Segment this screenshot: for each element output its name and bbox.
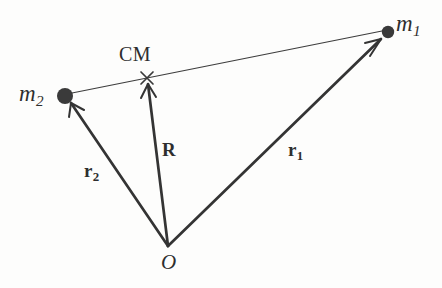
vector-r2-subscript: 2 bbox=[93, 169, 99, 184]
diagram-canvas bbox=[0, 0, 442, 288]
mass-2-subscript: 2 bbox=[36, 92, 44, 109]
origin-vertex-point bbox=[167, 245, 169, 247]
mass-1-dot-icon bbox=[382, 26, 394, 38]
center-of-mass-label: CM bbox=[119, 44, 151, 64]
center-of-mass-marker-icon bbox=[141, 72, 153, 84]
origin-label: O bbox=[161, 252, 176, 273]
mass-2-label: m2 bbox=[19, 82, 43, 105]
mass-1-label: m1 bbox=[396, 12, 420, 35]
vector-R-label: R bbox=[162, 140, 176, 159]
vector-r2-label: r2 bbox=[84, 161, 99, 180]
mass-2-dot-icon bbox=[57, 88, 73, 104]
vector-r1-label: r1 bbox=[288, 140, 303, 159]
mass-1-subscript: 1 bbox=[413, 22, 421, 39]
center-of-mass-diagram: m1 m2 CM O R r1 r2 bbox=[0, 0, 442, 288]
vector-r1-subscript: 1 bbox=[297, 148, 303, 163]
vector-r1-shaft bbox=[168, 39, 381, 246]
